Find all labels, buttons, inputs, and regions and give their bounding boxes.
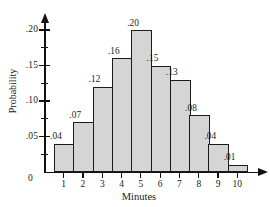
bar-value-label: .20 bbox=[127, 19, 139, 28]
x-axis-tick-label: 3 bbox=[92, 179, 112, 189]
bar-value-label: .16 bbox=[108, 47, 120, 56]
x-axis-tick-label: 5 bbox=[131, 179, 151, 189]
histogram-bar bbox=[170, 80, 191, 172]
origin-label: 0 bbox=[28, 174, 33, 184]
bar-value-label: .12 bbox=[89, 75, 101, 84]
x-axis-tick-center bbox=[82, 173, 83, 178]
y-axis-tick-minor bbox=[41, 83, 48, 84]
x-axis-tick-label: 6 bbox=[150, 179, 170, 189]
x-axis-tick-label: 8 bbox=[189, 179, 209, 189]
x-axis-tick-label: 10 bbox=[227, 179, 247, 189]
bar-value-label: .04 bbox=[50, 132, 62, 141]
histogram-bar bbox=[151, 66, 172, 173]
x-axis-tick-label: 9 bbox=[208, 179, 228, 189]
bar-value-label: .13 bbox=[166, 68, 178, 77]
bar-value-label: .01 bbox=[224, 153, 236, 162]
y-axis-tick-minor bbox=[41, 154, 48, 155]
histogram-bar bbox=[112, 58, 133, 172]
histogram-bar bbox=[189, 115, 210, 172]
x-axis-tick-label: 2 bbox=[73, 179, 93, 189]
x-axis-tick-center bbox=[179, 173, 180, 178]
y-axis-tick-major bbox=[39, 65, 50, 67]
x-axis-tick-center bbox=[237, 173, 238, 178]
y-axis-tick-major bbox=[39, 100, 50, 102]
y-axis-arrow-icon bbox=[41, 13, 49, 23]
x-axis-tick-label: 1 bbox=[54, 179, 74, 189]
x-axis-arrow-icon bbox=[258, 168, 268, 176]
x-axis-tick-label: 7 bbox=[169, 179, 189, 189]
x-axis-tick-center bbox=[140, 173, 141, 178]
probability-histogram-figure: 0 .05.10.15.20 12345678910 .04.07.12.16.… bbox=[0, 0, 270, 207]
x-axis-tick-center bbox=[198, 173, 199, 178]
y-axis-tick-label: .20 bbox=[10, 25, 38, 35]
x-axis-tick-center bbox=[217, 173, 218, 178]
y-axis-tick-minor bbox=[41, 47, 48, 48]
bar-value-label: .08 bbox=[185, 104, 197, 113]
bar-value-label: .15 bbox=[147, 54, 159, 63]
histogram-bar bbox=[131, 30, 152, 172]
bar-value-label: .07 bbox=[69, 111, 81, 120]
y-axis-tick-minor bbox=[41, 118, 48, 119]
y-axis-tick-major bbox=[39, 136, 50, 138]
y-axis-line bbox=[44, 22, 46, 173]
x-axis-tick-center bbox=[102, 173, 103, 178]
histogram-bar bbox=[93, 87, 114, 172]
x-axis-tick-center bbox=[63, 173, 64, 178]
x-axis-tick-center bbox=[121, 173, 122, 178]
histogram-bar bbox=[54, 144, 75, 172]
x-axis-tick-center bbox=[160, 173, 161, 178]
x-axis-title: Minutes bbox=[44, 191, 234, 202]
x-axis-tick-label: 4 bbox=[112, 179, 132, 189]
y-axis-tick-label: .05 bbox=[10, 132, 38, 142]
y-axis-title: Probability bbox=[8, 51, 18, 131]
histogram-bar bbox=[73, 122, 94, 172]
bar-value-label: .04 bbox=[204, 132, 216, 141]
histogram-bar bbox=[228, 165, 249, 172]
y-axis-tick-major bbox=[39, 29, 50, 31]
